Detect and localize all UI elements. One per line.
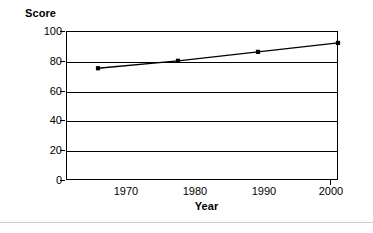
x-tick-label-1980: 1980 bbox=[165, 185, 225, 197]
gridline-20 bbox=[67, 151, 337, 152]
x-axis-title: Year bbox=[0, 200, 373, 212]
bottom-separator-rule bbox=[0, 222, 373, 223]
gridline-40 bbox=[67, 121, 337, 122]
y-tick-label-80: 80 bbox=[22, 56, 62, 67]
x-tick-label-2000: 2000 bbox=[301, 185, 361, 197]
plot-area bbox=[66, 31, 338, 180]
gridline-60 bbox=[67, 92, 337, 93]
y-axis-tick-labels: 100 80 60 40 20 0 bbox=[18, 31, 62, 180]
y-tick-label-60: 60 bbox=[22, 86, 62, 97]
line-chart-figure: Score 100 80 60 40 20 0 1970 1980 1990 2… bbox=[0, 0, 373, 233]
x-axis-title-text: Year bbox=[195, 200, 219, 212]
y-tick-label-100: 100 bbox=[22, 26, 62, 37]
y-tick-label-40: 40 bbox=[22, 115, 62, 126]
x-tick-label-1990: 1990 bbox=[234, 185, 294, 197]
y-tick-label-20: 20 bbox=[22, 145, 62, 156]
gridline-80 bbox=[67, 62, 337, 63]
x-axis-tick-labels: 1970 1980 1990 2000 bbox=[0, 185, 373, 199]
y-axis-title: Score bbox=[25, 7, 56, 19]
x-tick-label-1970: 1970 bbox=[96, 185, 156, 197]
